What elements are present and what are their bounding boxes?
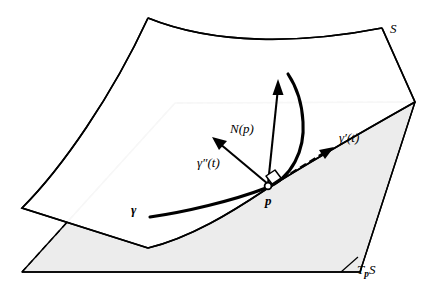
geometry-diagram (0, 0, 433, 293)
tangent-plane-label: TpS (357, 263, 375, 279)
velocity-vector-label: γ′(t) (339, 131, 359, 144)
normal-vector-label-text: N(p) (230, 121, 254, 136)
surface-label: S (390, 22, 397, 35)
curve-gamma-label: γ (131, 203, 136, 216)
point-p-marker (265, 183, 272, 190)
point-p-label: p (265, 194, 272, 207)
normal-vector-label: N(p) (230, 122, 254, 135)
acceleration-vector-label-text: γ″(t) (197, 155, 220, 170)
velocity-vector-label-text: γ′(t) (339, 130, 359, 145)
acceleration-vector-label: γ″(t) (197, 156, 220, 169)
tangent-plane-label-tail: S (369, 262, 376, 277)
figure-canvas: S TpS N(p) γ′(t) γ″(t) p γ (0, 0, 433, 293)
